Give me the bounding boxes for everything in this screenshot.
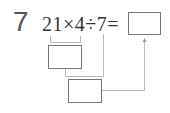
arrow-up-icon — [143, 38, 147, 42]
connector-lines — [0, 0, 170, 113]
